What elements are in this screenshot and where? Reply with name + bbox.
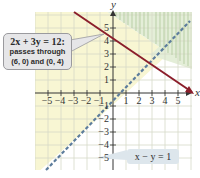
y-tick-label: 3 (104, 48, 109, 59)
y-tick-label: −2 (98, 113, 109, 124)
x-tick-label: 3 (150, 95, 155, 106)
x-axis-label: x (194, 86, 200, 98)
y-tick-label: 2 (104, 61, 109, 72)
y-tick-label: −3 (98, 126, 109, 137)
callout-line2: passes through (4, 47, 71, 57)
callout-equation: 2x + 3y = 12: (4, 37, 71, 47)
y-tick-label: −4 (98, 139, 109, 150)
callout-line3: (6, 0) and (0, 4) (4, 57, 71, 67)
x-tick-label: −4 (55, 95, 66, 106)
y-tick-label: 4 (104, 35, 109, 46)
x-tick-label: 5 (176, 95, 181, 106)
callout-dashed-line: x − y = 1 (127, 149, 179, 164)
x-tick-label: −3 (68, 95, 79, 106)
x-tick-label: 2 (137, 95, 142, 106)
y-tick-label: −1 (98, 100, 109, 111)
x-tick-label: −5 (42, 95, 53, 106)
x-tick-label: −2 (81, 95, 92, 106)
y-tick-label: 5 (104, 22, 109, 33)
y-tick-label: −5 (98, 152, 109, 163)
y-tick-label: 1 (104, 74, 109, 85)
callout-solid-line: 2x + 3y = 12: passes through (6, 0) and … (3, 33, 72, 70)
y-axis-label: y (110, 0, 116, 10)
x-tick-label: 1 (124, 95, 129, 106)
x-tick-label: 4 (163, 95, 168, 106)
